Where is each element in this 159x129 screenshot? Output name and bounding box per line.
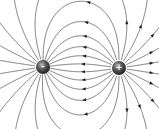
field-lines [0,0,159,129]
negative-charge-label: - [38,62,48,72]
positive-charge-label: + [114,63,124,73]
dipole-diagram: - + [0,0,159,129]
